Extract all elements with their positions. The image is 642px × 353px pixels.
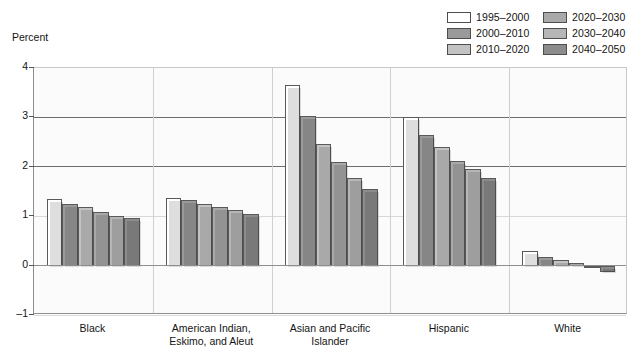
bar-shadow bbox=[603, 269, 617, 273]
bar bbox=[316, 144, 332, 266]
bar bbox=[450, 161, 466, 266]
bar bbox=[166, 198, 182, 266]
x-category-label: White bbox=[508, 322, 627, 335]
legend-item-2010-2020: 2010–2020 bbox=[447, 44, 543, 55]
gridline-3 bbox=[34, 117, 626, 118]
legend-item-1995-2000: 1995–2000 bbox=[447, 12, 543, 23]
bar bbox=[465, 169, 481, 265]
y-tick-label-2: 2 bbox=[6, 159, 28, 171]
x-category-line: Eskimo, and Aleut bbox=[152, 335, 271, 348]
legend-label-2030-2040: 2030–2040 bbox=[572, 28, 625, 39]
x-category-line: Asian and Pacific bbox=[271, 322, 390, 335]
zero-baseline bbox=[34, 265, 626, 266]
bar bbox=[124, 218, 140, 266]
bar bbox=[62, 204, 78, 266]
bar-shadow bbox=[200, 207, 214, 267]
bar bbox=[78, 207, 94, 265]
bar-shadow bbox=[231, 213, 245, 266]
y-tick-mark-1 bbox=[29, 215, 34, 216]
bar bbox=[419, 135, 435, 266]
bar bbox=[403, 117, 419, 265]
x-category-line: Hispanic bbox=[389, 322, 508, 335]
bar-shadow bbox=[437, 150, 451, 267]
group-separator bbox=[509, 68, 510, 313]
x-category-line: American Indian, bbox=[152, 322, 271, 335]
bar-shadow bbox=[50, 202, 64, 267]
chart-legend: 1995–2000 2020–2030 2000–2010 2030–2040 … bbox=[447, 9, 632, 57]
legend-label-1995-2000: 1995–2000 bbox=[476, 12, 529, 23]
plot-inner bbox=[34, 68, 626, 313]
x-category-line: Black bbox=[33, 322, 152, 335]
bar bbox=[109, 216, 125, 265]
bar bbox=[212, 207, 228, 265]
legend-label-2020-2030: 2020–2030 bbox=[572, 12, 625, 23]
bar-shadow bbox=[350, 181, 364, 267]
bar bbox=[300, 116, 316, 266]
legend-label-2000-2010: 2000–2010 bbox=[476, 28, 529, 39]
bar-shadow bbox=[246, 217, 260, 267]
y-tick-mark-3 bbox=[29, 116, 34, 117]
bar-shadow bbox=[303, 119, 317, 267]
bar-shadow bbox=[365, 192, 379, 267]
bar bbox=[197, 204, 213, 266]
legend-item-2000-2010: 2000–2010 bbox=[447, 28, 543, 39]
legend-swatch-2040-2050 bbox=[543, 44, 567, 55]
x-category-label: Black bbox=[33, 322, 152, 335]
bar bbox=[600, 266, 616, 272]
bar-shadow bbox=[422, 138, 436, 267]
bar bbox=[243, 214, 259, 266]
bar-shadow bbox=[215, 210, 229, 266]
bar-shadow bbox=[453, 164, 467, 267]
legend-item-2040-2050: 2040–2050 bbox=[543, 44, 632, 55]
y-axis-title: Percent bbox=[12, 31, 48, 43]
bar-shadow bbox=[468, 172, 482, 266]
bar bbox=[331, 162, 347, 266]
gridline--1 bbox=[34, 315, 626, 316]
bar-shadow bbox=[334, 165, 348, 267]
x-category-label: Hispanic bbox=[389, 322, 508, 335]
y-tick-label-4: 4 bbox=[6, 60, 28, 72]
y-tick-label-3: 3 bbox=[6, 109, 28, 121]
bar bbox=[181, 200, 197, 265]
x-category-line: Islander bbox=[271, 335, 390, 348]
bar bbox=[522, 251, 538, 266]
legend-item-2030-2040: 2030–2040 bbox=[543, 28, 632, 39]
bar bbox=[285, 85, 301, 265]
y-tick-mark--1 bbox=[29, 314, 34, 315]
legend-label-2010-2020: 2010–2020 bbox=[476, 44, 529, 55]
legend-swatch-2000-2010 bbox=[447, 28, 471, 39]
bar bbox=[347, 178, 363, 266]
legend-swatch-2030-2040 bbox=[543, 28, 567, 39]
bar-shadow bbox=[65, 207, 79, 267]
bar-shadow bbox=[288, 88, 302, 266]
bar-shadow bbox=[96, 215, 110, 266]
bar-shadow bbox=[406, 120, 420, 266]
x-category-line: White bbox=[508, 322, 627, 335]
bar bbox=[481, 178, 497, 266]
bar-shadow bbox=[81, 210, 95, 266]
group-separator bbox=[272, 68, 273, 313]
y-tick-mark-4 bbox=[29, 67, 34, 68]
legend-swatch-2010-2020 bbox=[447, 44, 471, 55]
bar-shadow bbox=[112, 219, 126, 266]
legend-label-2040-2050: 2040–2050 bbox=[572, 44, 625, 55]
x-category-label: American Indian,Eskimo, and Aleut bbox=[152, 322, 271, 348]
bar-shadow bbox=[169, 201, 183, 267]
y-tick-label--1: –1 bbox=[6, 307, 28, 319]
bar-shadow bbox=[484, 181, 498, 267]
bar-shadow bbox=[127, 221, 141, 267]
legend-swatch-1995-2000 bbox=[447, 12, 471, 23]
group-separator bbox=[153, 68, 154, 313]
plot-area bbox=[33, 67, 627, 314]
bar bbox=[47, 199, 63, 266]
bar-shadow bbox=[319, 147, 333, 267]
legend-swatch-2020-2030 bbox=[543, 12, 567, 23]
bar bbox=[228, 210, 244, 265]
x-category-label: Asian and PacificIslander bbox=[271, 322, 390, 348]
bar bbox=[362, 189, 378, 266]
y-tick-label-0: 0 bbox=[6, 258, 28, 270]
bar-shadow bbox=[184, 203, 198, 266]
bar bbox=[434, 147, 450, 266]
legend-item-2020-2030: 2020–2030 bbox=[543, 12, 632, 23]
y-tick-label-1: 1 bbox=[6, 208, 28, 220]
